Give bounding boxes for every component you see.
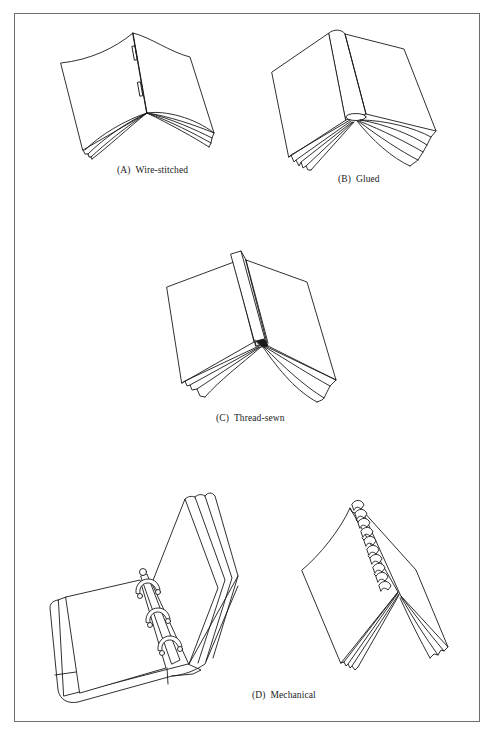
caption-label: Mechanical [271,690,316,700]
thread-sewn-book-icon [167,251,336,402]
caption-mechanical: (D)Mechanical [252,690,316,700]
caption-thread-sewn: (C)Thread-sewn [216,413,285,423]
ring-binder-icon [50,493,238,703]
binding-illustrations [0,0,495,730]
caption-tag: (C) [216,413,229,423]
caption-label: Wire-stitched [136,165,189,175]
caption-tag: (D) [252,690,266,700]
caption-tag: (A) [117,165,131,175]
spiral-bound-book-icon [302,500,448,670]
caption-label: Glued [356,174,380,184]
glued-book-icon [272,30,436,170]
caption-wire-stitched: (A)Wire-stitched [117,165,188,175]
caption-tag: (B) [338,174,351,184]
caption-label: Thread-sewn [234,413,285,423]
caption-glued: (B)Glued [338,174,380,184]
wire-stitched-book-icon [61,33,214,159]
